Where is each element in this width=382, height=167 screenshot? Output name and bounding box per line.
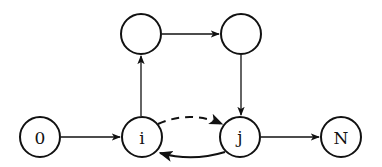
node-label: i [139,128,145,148]
node-label: j [235,127,242,147]
node-label: 0 [35,128,46,148]
node-N: N [321,117,361,157]
node-j: j [220,117,260,157]
edge-j-to-i [160,152,225,157]
node-i: i [122,117,162,157]
node-label: N [334,128,349,148]
node-0: 0 [20,117,60,157]
node-top-left [121,14,161,54]
node-top-right [221,14,261,54]
edge-i-to-j-dashed [158,117,222,124]
graph-diagram: 0 i j N [0,0,382,167]
